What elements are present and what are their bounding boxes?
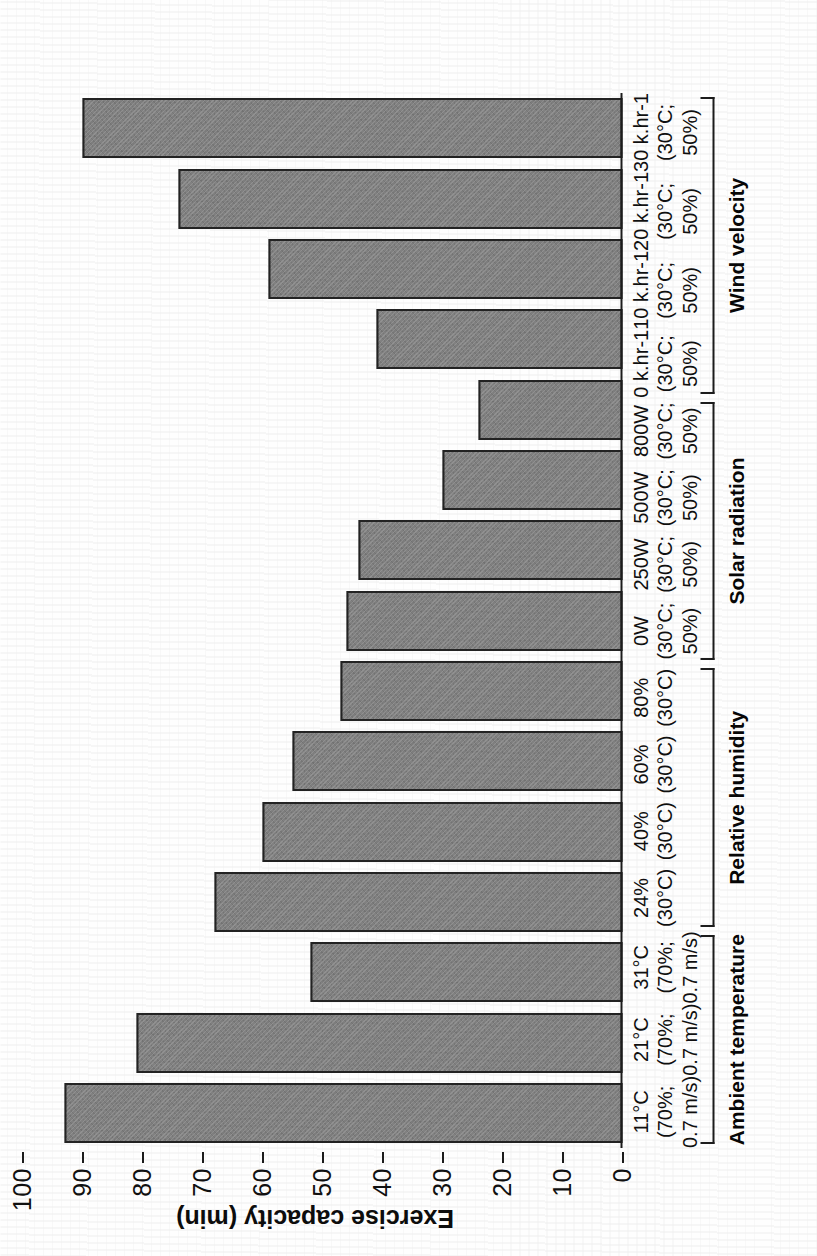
bar-slot	[22, 726, 622, 796]
y-tick-label: 60	[248, 1168, 277, 1197]
y-tick-mark	[141, 1152, 143, 1163]
group-title: Wind velocity	[724, 93, 748, 398]
bar[interactable]	[178, 169, 622, 229]
category-label-line: 50%)	[677, 93, 701, 172]
y-tick-mark	[261, 1152, 263, 1163]
bar-slot	[22, 234, 622, 304]
y-tick-mark	[321, 1152, 323, 1163]
bar-slot	[22, 867, 622, 937]
y-tick-label: 70	[188, 1168, 217, 1197]
bar[interactable]	[64, 1083, 622, 1143]
bar-slot	[22, 515, 622, 585]
group-rule-cap-right	[700, 935, 714, 937]
category-label-line: 800W	[628, 398, 652, 465]
y-tick-mark	[441, 1152, 443, 1163]
category-label-line: (30°C)	[652, 731, 676, 798]
category-label: 21°C(70%;0.7 m/s)	[626, 1004, 796, 1076]
bar[interactable]	[292, 731, 622, 791]
category-label-line: (30°C;	[652, 93, 676, 172]
category-label: 10 k.hr-1(30°C;50%)	[626, 251, 796, 330]
category-label-line: 500W	[628, 464, 652, 531]
category-label: 24%(30°C)	[626, 865, 796, 932]
bar-chart-figure: 0102030405060708090100 Exercise capacity…	[0, 0, 817, 1256]
category-label-line: 80%	[628, 664, 652, 731]
bar[interactable]	[214, 872, 622, 932]
bar[interactable]	[262, 802, 622, 862]
category-label-line: 50%)	[677, 531, 701, 598]
bar-group	[22, 656, 622, 937]
category-label: 30 k.hr-1(30°C;50%)	[626, 93, 796, 172]
category-label-line: 50%)	[677, 172, 701, 251]
bar[interactable]	[340, 661, 622, 721]
category-label: 800W(30°C;50%)	[626, 398, 796, 465]
category-label-line: (30°C;	[652, 598, 676, 665]
y-tick-mark	[561, 1152, 563, 1163]
category-label-line: 60%	[628, 731, 652, 798]
bar-slot	[22, 304, 622, 374]
category-label: 80%(30°C)	[626, 664, 796, 731]
group-rule-cap-right	[700, 668, 714, 670]
y-tick-mark	[501, 1152, 503, 1163]
category-label: 0 k.hr-1(30°C;50%)	[626, 330, 796, 398]
category-label-line: (70%;	[652, 1076, 676, 1148]
group-rule-cap-left	[700, 1142, 714, 1144]
y-axis-title: Exercise capacity (min)	[15, 1204, 615, 1233]
category-label-line: 50%)	[677, 251, 701, 330]
bar[interactable]	[82, 98, 622, 158]
scanned-page: 0102030405060708090100 Exercise capacity…	[0, 0, 817, 1256]
category-label-line: 0.7 m/s)	[677, 931, 701, 1003]
group-separator-rule	[712, 668, 714, 927]
bar[interactable]	[478, 380, 622, 440]
y-tick-label: 0	[608, 1168, 637, 1182]
bar-group	[22, 937, 622, 1148]
y-tick-label: 40	[368, 1168, 397, 1197]
y-tick-label: 50	[308, 1168, 337, 1197]
bar-slot	[22, 163, 622, 233]
bar-slot	[22, 796, 622, 866]
bar-group	[22, 374, 622, 655]
category-label-line: 50%)	[677, 330, 701, 398]
bar[interactable]	[346, 591, 622, 651]
group-separator-rule	[712, 935, 714, 1144]
category-label-line: (70%;	[652, 1004, 676, 1076]
bar[interactable]	[358, 520, 622, 580]
category-label-line: (30°C;	[652, 330, 676, 398]
rotated-figure-wrapper: 0102030405060708090100 Exercise capacity…	[0, 0, 817, 1256]
category-label-line: 250W	[628, 531, 652, 598]
category-label: 0W(30°C;50%)	[626, 598, 796, 665]
category-axis-labels: 11°C(70%;0.7 m/s)21°C(70%;0.7 m/s)31°C(7…	[626, 93, 796, 1148]
category-label-line: 11°C	[628, 1076, 652, 1148]
category-label-line: 40%	[628, 798, 652, 865]
category-label: 40%(30°C)	[626, 798, 796, 865]
category-label-line: (70%;	[652, 931, 676, 1003]
category-group: 0W(30°C;50%)250W(30°C;50%)500W(30°C;50%)…	[626, 398, 796, 665]
bar[interactable]	[310, 942, 622, 1002]
group-title: Ambient temperature	[724, 931, 748, 1148]
bar-series	[22, 93, 622, 1148]
category-label-line: 21°C	[628, 1004, 652, 1076]
category-label: 250W(30°C;50%)	[626, 531, 796, 598]
bar-slot	[22, 93, 622, 163]
category-label-line: 0.7 m/s)	[677, 1004, 701, 1076]
bar[interactable]	[268, 239, 622, 299]
y-tick-label: 20	[488, 1168, 517, 1197]
y-tick-mark	[21, 1152, 23, 1163]
group-title: Solar radiation	[724, 398, 748, 665]
category-label-line: (30°C;	[652, 251, 676, 330]
category-label-line: 10 k.hr-1	[628, 251, 652, 330]
y-tick-mark	[621, 1152, 623, 1163]
bar[interactable]	[376, 309, 622, 369]
category-label-line: 20 k.hr-1	[628, 172, 652, 251]
bar-slot	[22, 585, 622, 655]
bar[interactable]	[136, 1013, 622, 1073]
category-label-line: (30°C;	[652, 398, 676, 465]
category-label-line: 50%)	[677, 398, 701, 465]
category-label: 11°C(70%;0.7 m/s)	[626, 1076, 796, 1148]
category-label-line: 50%)	[677, 598, 701, 665]
category-label-line: 50%)	[677, 464, 701, 531]
bar[interactable]	[442, 450, 622, 510]
category-label-line: 31°C	[628, 931, 652, 1003]
category-label-line: (30°C;	[652, 464, 676, 531]
group-rule-cap-right	[700, 402, 714, 404]
bar-slot	[22, 656, 622, 726]
